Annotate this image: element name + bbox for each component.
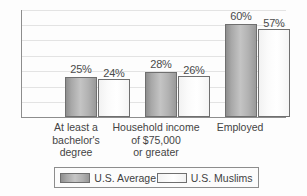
legend-item-muslims[interactable]: U.S. Muslims [157,172,253,184]
bar-muslims-employed[interactable]: 57% [258,29,290,117]
x-axis-label-employed: Employed [190,121,290,134]
bar-value-label: 24% [103,67,124,79]
bar-value-label: 57% [263,17,284,29]
legend-swatch-muslims [157,173,187,183]
bar-average-employed[interactable]: 60% [225,24,257,117]
x-axis-baseline [21,117,286,118]
bar-pair: 28% 26% [145,72,210,117]
bar-value-label: 26% [183,64,204,76]
bar-average-bachelors-degree[interactable]: 25% [65,77,97,117]
bar-value-label: 25% [70,63,91,75]
legend-item-average[interactable]: U.S. Average [60,172,156,184]
bar-pair: 25% 24% [65,77,130,117]
chart-legend: U.S. Average U.S. Muslims [54,167,259,188]
legend-label-muslims: U.S. Muslims [191,172,253,184]
bar-pair: 60% 57% [225,24,290,117]
bar-muslims-bachelors-degree[interactable]: 24% [98,79,130,117]
plot-area: 25% 24% 28% 26% 60% [21,10,286,118]
legend-label-average: U.S. Average [94,172,156,184]
bar-muslims-household-income[interactable]: 26% [178,76,210,117]
bar-average-household-income[interactable]: 28% [145,72,177,117]
legend-swatch-average [60,173,90,183]
chart-figure: 25% 24% 28% 26% 60% [0,0,307,196]
bar-value-label: 60% [230,10,251,22]
bar-value-label: 28% [150,58,171,70]
